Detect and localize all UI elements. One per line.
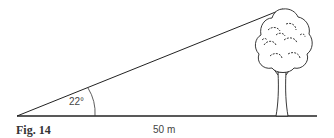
diagram-canvas [0,0,334,138]
tree-icon [255,9,312,116]
distance-label: 50 m [153,124,175,135]
angle-arc [88,88,95,116]
figure-caption: Fig. 14 [16,123,51,138]
angle-label: 22° [69,96,84,107]
line-of-sight [17,9,283,116]
